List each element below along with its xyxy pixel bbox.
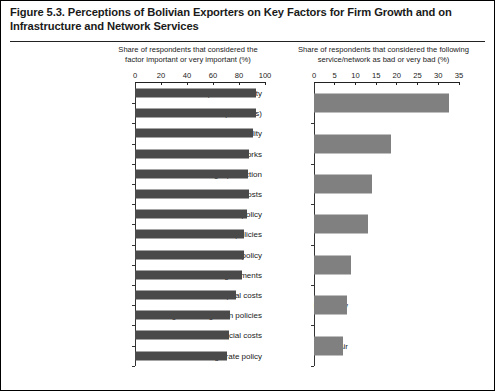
bar[interactable] bbox=[135, 89, 256, 98]
bar-row[interactable]: Financial costs bbox=[135, 325, 265, 345]
bar[interactable] bbox=[314, 215, 368, 234]
xtick-label: 10 bbox=[351, 71, 359, 80]
bar[interactable] bbox=[135, 109, 256, 118]
bar[interactable] bbox=[135, 149, 249, 158]
ytick-mark bbox=[132, 366, 135, 367]
xtick-label: 25 bbox=[413, 71, 421, 80]
bar[interactable] bbox=[135, 169, 248, 178]
bar[interactable] bbox=[135, 230, 244, 239]
chart-right-axis-zone: 05101520253035 RoadsTrainsWaterHidroviaT… bbox=[314, 71, 459, 366]
bar[interactable] bbox=[135, 290, 236, 299]
bar-row[interactable]: Air bbox=[314, 325, 459, 365]
bar[interactable] bbox=[135, 311, 230, 320]
bar-row[interactable]: Exchange rate policy bbox=[135, 345, 265, 365]
ytick-mark bbox=[311, 366, 314, 367]
chart-right-caption: Share of respondents that considered the… bbox=[281, 45, 486, 64]
bar-row[interactable]: Trade agreements bbox=[135, 265, 265, 285]
bar-row[interactable]: Inputs availability bbox=[135, 83, 265, 103]
bar[interactable] bbox=[314, 336, 343, 355]
bar[interactable] bbox=[314, 255, 351, 274]
xtick-label: 0 bbox=[312, 71, 316, 80]
xtick-label: 60 bbox=[209, 71, 217, 80]
bar-row[interactable]: Regional Integration policies bbox=[135, 305, 265, 325]
bar-row[interactable]: Infrastructure networks bbox=[135, 144, 265, 164]
chart-left-axis-zone: 020406080100 Inputs availabilityMarket a… bbox=[135, 71, 265, 366]
chart-panel-right: Share of respondents that considered the… bbox=[277, 45, 492, 64]
xtick-label: 5 bbox=[333, 71, 337, 80]
chart-left-xtick-labels: 020406080100 bbox=[135, 71, 265, 82]
bar[interactable] bbox=[135, 351, 227, 360]
chart-right-xtick-labels: 05101520253035 bbox=[314, 71, 459, 82]
bar-row[interactable]: Political stability bbox=[135, 123, 265, 143]
chart-right-plot: RoadsTrainsWaterHidroviaTelecomElectrici… bbox=[314, 83, 459, 366]
bar[interactable] bbox=[135, 270, 242, 279]
bar[interactable] bbox=[314, 174, 372, 193]
xtick-label: 0 bbox=[133, 71, 137, 80]
bar-row[interactable]: Tax policy bbox=[135, 204, 265, 224]
title-divider bbox=[10, 41, 485, 42]
bar-row[interactable]: Labor costs bbox=[135, 184, 265, 204]
bar-row[interactable]: Water bbox=[314, 164, 459, 204]
bar[interactable] bbox=[135, 250, 244, 259]
figure-container: Figure 5.3. Perceptions of Bolivian Expo… bbox=[0, 0, 495, 391]
chart-panel-left: Share of respondents that considered the… bbox=[5, 45, 273, 64]
bar-row[interactable]: Trains bbox=[314, 123, 459, 163]
xtick-label: 30 bbox=[434, 71, 442, 80]
xtick-label: 20 bbox=[393, 71, 401, 80]
xtick-label: 15 bbox=[372, 71, 380, 80]
xtick-label: 100 bbox=[259, 71, 272, 80]
xtick-label: 40 bbox=[183, 71, 191, 80]
bar-row[interactable]: Telecom bbox=[314, 245, 459, 285]
bar-row[interactable]: Roads bbox=[314, 83, 459, 123]
bar[interactable] bbox=[314, 94, 449, 113]
bar[interactable] bbox=[314, 296, 347, 315]
bar-row[interactable]: Legal protection bbox=[135, 164, 265, 184]
bar-row[interactable]: Market access (overseas) bbox=[135, 103, 265, 123]
bar[interactable] bbox=[135, 190, 249, 199]
bar-row[interactable]: Trade policy bbox=[135, 245, 265, 265]
bar[interactable] bbox=[135, 129, 253, 138]
xtick-label: 35 bbox=[455, 71, 463, 80]
bar[interactable] bbox=[314, 134, 391, 153]
bar-row[interactable]: Hidrovia bbox=[314, 204, 459, 244]
chart-left-caption: Share of respondents that considered the… bbox=[113, 45, 263, 64]
bar[interactable] bbox=[135, 210, 247, 219]
xtick-label: 80 bbox=[235, 71, 243, 80]
bar-row[interactable]: Capital costs bbox=[135, 285, 265, 305]
bar[interactable] bbox=[135, 331, 229, 340]
chart-left-plot: Inputs availabilityMarket access (overse… bbox=[135, 83, 265, 366]
xtick-label: 20 bbox=[157, 71, 165, 80]
bar-row[interactable]: Electricity bbox=[314, 285, 459, 325]
bar-row[interactable]: Drawback policies bbox=[135, 224, 265, 244]
figure-title: Figure 5.3. Perceptions of Bolivian Expo… bbox=[10, 5, 485, 33]
